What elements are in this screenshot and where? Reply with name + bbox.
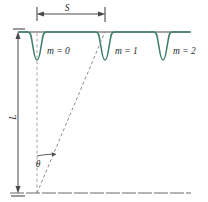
label-fringe-spacing: S [65, 3, 70, 13]
S-arrowhead-left [37, 12, 45, 17]
diffraction-ray-dashed [37, 32, 105, 193]
label-screen-distance: L [8, 114, 18, 120]
label-angle: θ [36, 159, 41, 169]
S-arrowhead-right [98, 12, 106, 17]
L-arrowhead-bottom [16, 186, 21, 194]
label-order-2: m = 2 [173, 46, 196, 56]
intensity-curve [19, 32, 190, 60]
figure-canvas: S L θ m = 0 m = 1 m = 2 [0, 0, 208, 202]
label-order-1: m = 1 [115, 46, 138, 56]
interference-figure: S L θ m = 0 m = 1 m = 2 [0, 0, 208, 202]
angle-arc-arrowhead [52, 152, 57, 156]
label-order-0: m = 0 [47, 46, 70, 56]
